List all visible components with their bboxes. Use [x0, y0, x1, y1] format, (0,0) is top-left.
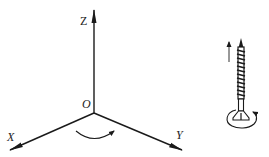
coordinate-system-diagram: Z X Y O — [0, 0, 269, 157]
x-axis — [10, 113, 94, 150]
origin-label: O — [82, 97, 91, 111]
z-axis-label: Z — [80, 14, 87, 28]
y-axis-label: Y — [176, 128, 184, 142]
rotation-arrow-icon — [76, 131, 114, 139]
y-axis — [94, 113, 182, 150]
screw-icon — [227, 38, 256, 128]
x-axis-label: X — [6, 130, 15, 144]
